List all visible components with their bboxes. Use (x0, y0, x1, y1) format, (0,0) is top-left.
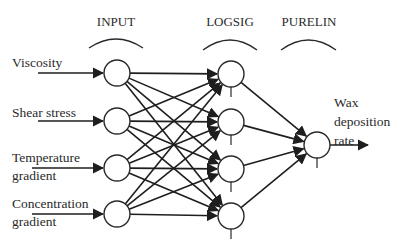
hidden-node-group (218, 203, 244, 239)
connection-weight (130, 73, 217, 74)
input-label: Shear stress (12, 105, 76, 120)
hidden-node-group (218, 156, 244, 192)
input-node-group: Shear stress (12, 105, 130, 134)
input-node-group: Temperaturegradient (12, 150, 130, 183)
layer-brackets (89, 39, 336, 50)
hidden-neuron (218, 203, 244, 229)
input-label: gradient (12, 168, 56, 183)
output-label: deposition (334, 114, 390, 129)
connections (125, 73, 306, 216)
connection-weight (130, 214, 217, 216)
layer-labels: INPUTLOGSIGPURELIN (97, 14, 337, 29)
output-neuron (304, 132, 330, 158)
input-node-group: Viscosity (12, 55, 130, 86)
hidden-neuron (218, 156, 244, 182)
hidden-neuron (218, 61, 244, 87)
neural-network-diagram: INPUTLOGSIGPURELIN ViscosityShear stress… (0, 0, 407, 241)
output-label: rate (334, 133, 354, 148)
input-neuron (104, 108, 130, 134)
input-label: Viscosity (12, 55, 62, 70)
input-layer: ViscosityShear stressTemperaturegradient… (12, 55, 130, 229)
hidden-node-group (218, 61, 244, 97)
input-node-group: Concentrationgradient (12, 196, 130, 229)
connection-weight (244, 125, 304, 141)
output-label: Wax (334, 95, 359, 110)
layer-label-input: INPUT (97, 14, 135, 29)
input-label: Concentration (12, 196, 89, 211)
input-neuron (104, 201, 130, 227)
bracket-arc-output (281, 40, 336, 50)
hidden-node-group (218, 109, 244, 145)
bracket-arc-hidden (203, 40, 257, 50)
output-layer: Waxdepositionrate (304, 95, 390, 168)
layer-label-hidden: LOGSIG (206, 14, 254, 29)
layer-label-output: PURELIN (282, 14, 338, 29)
input-label: Temperature (12, 150, 80, 165)
output-node-group: Waxdepositionrate (304, 95, 390, 168)
bracket-arc-input (89, 39, 143, 48)
input-neuron (104, 60, 130, 86)
connection-weight (241, 154, 306, 208)
hidden-neuron (218, 109, 244, 135)
input-label: gradient (12, 214, 56, 229)
input-neuron (104, 155, 130, 181)
hidden-layer (218, 61, 244, 239)
